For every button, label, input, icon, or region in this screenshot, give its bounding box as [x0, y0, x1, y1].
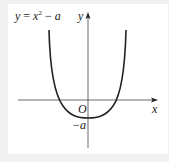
- x-axis-label: x: [152, 103, 157, 115]
- function-curve: [49, 30, 126, 118]
- origin-label: O: [78, 103, 87, 115]
- function-graph: [0, 0, 169, 162]
- function-formula: y = x2 − a: [15, 10, 61, 22]
- y-intercept-label: −a: [72, 119, 86, 131]
- y-axis-label: y: [78, 10, 83, 22]
